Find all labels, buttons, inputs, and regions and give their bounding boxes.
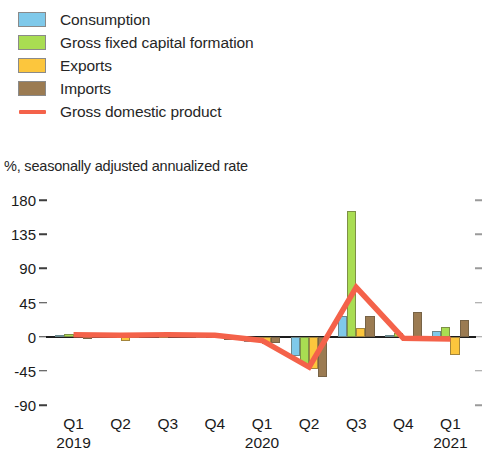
plot-area — [50, 200, 474, 405]
bar-gross-fixed-capital-formation — [111, 335, 120, 337]
bar-exports — [356, 328, 365, 337]
y-axis-tick-mark-right — [475, 404, 482, 406]
y-axis-tick-mark-right — [475, 199, 482, 201]
y-axis-tick-label: -90 — [0, 397, 36, 414]
bar-exports — [450, 337, 459, 355]
bar-exports — [262, 337, 271, 345]
bar-gross-fixed-capital-formation — [64, 334, 73, 337]
x-axis-label-group: Q4 — [393, 414, 414, 433]
bar-imports — [365, 316, 374, 337]
x-axis-year-label: 2020 — [245, 433, 279, 453]
y-axis-tick-mark-right — [475, 370, 482, 372]
y-axis-tick-mark-right — [475, 233, 482, 235]
x-axis-quarter-label: Q1 — [56, 414, 90, 433]
x-axis-quarter-label: Q3 — [157, 414, 178, 433]
bar-imports — [271, 337, 280, 344]
y-axis-tick-mark-right — [475, 268, 482, 270]
bar-imports — [413, 312, 422, 336]
bar-consumption — [196, 336, 205, 338]
bar-consumption — [244, 337, 253, 342]
x-axis-quarter-label: Q3 — [346, 414, 367, 433]
y-axis-tick-mark — [39, 404, 47, 406]
bar-imports — [224, 337, 233, 341]
bar-gross-fixed-capital-formation — [206, 335, 215, 337]
bar-gross-fixed-capital-formation — [441, 327, 450, 337]
y-axis-tick-mark — [39, 268, 47, 270]
x-axis-label-group: Q2 — [110, 414, 131, 433]
x-axis-quarter-label: Q2 — [299, 414, 320, 433]
bar-imports — [177, 335, 186, 337]
bar-gross-fixed-capital-formation — [159, 336, 168, 338]
y-axis-tick-label: -45 — [0, 362, 36, 379]
bar-consumption — [149, 334, 158, 336]
x-axis-quarter-label: Q1 — [433, 414, 467, 433]
bar-exports — [121, 337, 130, 342]
y-axis-tick-mark-right — [475, 336, 482, 338]
y-axis-tick-label: 90 — [0, 260, 36, 277]
x-axis-label-group: Q12019 — [56, 414, 90, 453]
bar-gross-fixed-capital-formation — [253, 337, 262, 340]
y-axis-tick-mark-right — [475, 302, 482, 304]
x-axis-label-group: Q3 — [157, 414, 178, 433]
bar-imports — [318, 337, 327, 377]
bar-gross-fixed-capital-formation — [347, 211, 356, 336]
bar-exports — [309, 337, 318, 369]
y-axis-tick-mark — [39, 370, 47, 372]
bar-consumption — [102, 334, 111, 336]
bar-consumption — [338, 316, 347, 337]
y-axis-tick-mark — [39, 302, 47, 304]
bar-consumption — [432, 331, 441, 336]
y-axis-tick-mark — [39, 233, 47, 235]
x-axis-label-group: Q4 — [205, 414, 226, 433]
bar-consumption — [55, 335, 64, 337]
x-axis-label-group: Q2 — [299, 414, 320, 433]
bar-exports — [74, 333, 83, 337]
x-axis-quarter-label: Q4 — [205, 414, 226, 433]
bar-gross-fixed-capital-formation — [394, 333, 403, 337]
y-axis-tick-mark — [39, 199, 47, 201]
y-axis-labels: 18013590450-45-90 — [0, 0, 36, 464]
x-axis-label-group: Q3 — [346, 414, 367, 433]
gdp-line-series — [50, 200, 474, 405]
bar-consumption — [385, 335, 394, 337]
y-axis-tick-label: 45 — [0, 294, 36, 311]
y-axis-tick-label: 135 — [0, 226, 36, 243]
gdp-line-path — [74, 287, 451, 367]
x-axis-quarter-label: Q2 — [110, 414, 131, 433]
x-axis-year-label: 2019 — [56, 433, 90, 453]
x-axis-quarter-label: Q1 — [245, 414, 279, 433]
bar-exports — [403, 337, 412, 339]
x-axis-label-group: Q12021 — [433, 414, 467, 453]
bar-exports — [168, 335, 177, 337]
y-axis-tick-label: 0 — [0, 328, 36, 345]
bar-consumption — [291, 337, 300, 356]
bar-gross-fixed-capital-formation — [300, 337, 309, 365]
x-axis-year-label: 2021 — [433, 433, 467, 453]
x-axis-label-group: Q12020 — [245, 414, 279, 453]
x-axis-quarter-label: Q4 — [393, 414, 414, 433]
x-axis-labels: Q12019Q2Q3Q4Q12020Q2Q3Q4Q12021 — [50, 414, 474, 464]
bar-imports — [130, 336, 139, 338]
bar-exports — [215, 335, 224, 337]
y-axis-tick-label: 180 — [0, 192, 36, 209]
chart-canvas: 18013590450-45-90 Q12019Q2Q3Q4Q12020Q2Q3… — [0, 0, 484, 464]
bar-imports — [460, 320, 469, 337]
bar-imports — [83, 337, 92, 339]
